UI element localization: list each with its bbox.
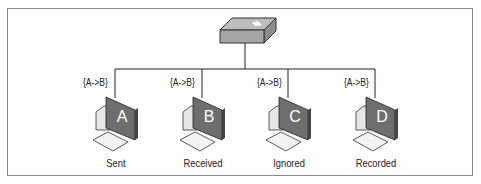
frame-label-c: {A->B}	[257, 77, 282, 88]
caption-c: Ignored	[255, 157, 323, 169]
host-letter-d: D	[372, 108, 392, 126]
host-letter-a: A	[112, 108, 132, 126]
frame-label-b: {A->B}	[170, 77, 195, 88]
frame-label-d: {A->B}	[344, 77, 369, 88]
frame-label-a: {A->B}	[83, 77, 108, 88]
host-letter-c: C	[285, 108, 305, 126]
host-letter-b: B	[199, 108, 219, 126]
caption-b: Received	[169, 157, 237, 169]
caption-a: Sent	[82, 157, 150, 169]
caption-d: Recorded	[342, 157, 410, 169]
switch-icon	[220, 18, 276, 43]
